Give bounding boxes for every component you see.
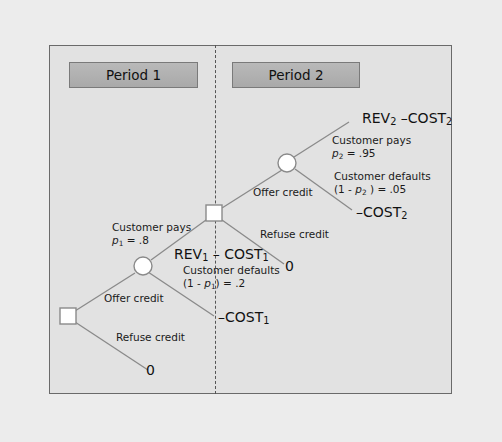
payoff-rev2-cost2: REV2 –COST2 [362, 110, 452, 127]
p1-decision-node [60, 308, 76, 324]
p1-offer-credit-label: Offer credit [104, 292, 164, 305]
p1-refuse-credit-branch [75, 322, 148, 370]
decision-tree [0, 0, 502, 442]
p2-customer-defaults-label: Customer defaults [334, 170, 431, 183]
p2-refuse-credit-label: Refuse credit [260, 228, 329, 241]
p1-pays-probability: p1 = .8 [112, 234, 149, 250]
p1-customer-pays-label: Customer pays [112, 221, 191, 234]
payoff-p1-refuse-zero: 0 [146, 362, 155, 378]
p2-decision-node [206, 205, 222, 221]
p1-refuse-credit-label: Refuse credit [116, 331, 185, 344]
payoff-neg-cost1: –COST1 [218, 309, 269, 326]
p2-chance-node [278, 154, 296, 172]
payoff-rev1-cost1: REV1 – COST1 [174, 246, 269, 263]
p1-chance-node [134, 257, 152, 275]
payoff-p2-refuse-zero: 0 [285, 258, 294, 274]
p2-offer-credit-label: Offer credit [253, 186, 313, 199]
p1-customer-defaults-label: Customer defaults [183, 264, 280, 277]
p2-pays-probability: p2 = .95 [332, 147, 376, 163]
p1-defaults-probability: (1 - p1) = .2 [183, 277, 245, 293]
p2-customer-pays-label: Customer pays [332, 134, 411, 147]
p2-defaults-probability: (1 - p2 ) = .05 [334, 183, 406, 199]
payoff-neg-cost2: –COST2 [356, 204, 407, 221]
